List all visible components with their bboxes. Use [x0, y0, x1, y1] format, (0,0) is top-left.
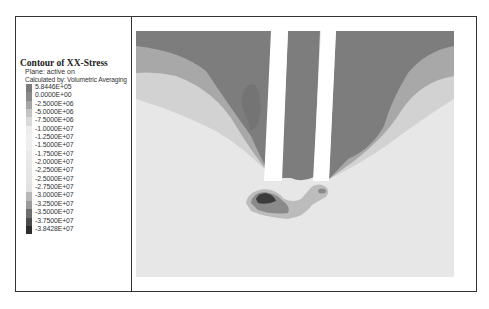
- scale-label: -2.0000E+07: [35, 158, 74, 165]
- scale-label: -2.5000E+07: [35, 175, 74, 182]
- scale-label: -1.2500E+07: [35, 133, 74, 140]
- scale-swatch: [26, 134, 32, 142]
- scale-label: -1.7500E+07: [35, 150, 74, 157]
- scale-label: -3.8428E+07: [35, 225, 74, 232]
- scale-swatch: [26, 117, 32, 125]
- contour-plot: [136, 31, 454, 277]
- legend-plane: Plane: active on: [25, 68, 132, 76]
- scale-label: 5.8446E+05: [35, 83, 71, 90]
- scale-swatch: [26, 176, 32, 184]
- scale-label: -2.7500E+07: [35, 183, 74, 190]
- scale-label: -3.2500E+07: [35, 200, 74, 207]
- scale-swatch: [26, 151, 32, 159]
- scale-label: -5.0000E+06: [35, 108, 74, 115]
- scale-swatch: [26, 184, 32, 192]
- scale-label: -2.2500E+07: [35, 166, 74, 173]
- scale-label: -1.5000E+07: [35, 141, 74, 148]
- contour-legend: Contour of XX-Stress Plane: active on Ca…: [20, 58, 132, 84]
- scale-label: -3.5000E+07: [35, 208, 74, 215]
- scale-swatch: [26, 226, 32, 234]
- scale-swatch: [26, 201, 32, 209]
- scale-swatch: [26, 109, 32, 117]
- scale-label: -3.0000E+07: [35, 191, 74, 198]
- scale-swatch: [26, 167, 32, 175]
- scale-label: -2.5000E+06: [35, 100, 74, 107]
- scale-label: -3.7500E+07: [35, 217, 74, 224]
- scale-swatch: [26, 218, 32, 226]
- scale-swatch: [26, 209, 32, 217]
- legend-title: Contour of XX-Stress: [20, 58, 132, 68]
- scale-swatch: [26, 159, 32, 167]
- contour-hotspot-small: [318, 189, 326, 194]
- scale-label: 0.0000E+00: [35, 91, 71, 98]
- scale-swatch: [26, 126, 32, 134]
- scale-swatch: [26, 142, 32, 150]
- scale-label: -7.5000E+06: [35, 116, 74, 123]
- scale-swatch: [26, 192, 32, 200]
- scale-label: -1.0000E+07: [35, 125, 74, 132]
- scale-swatch: [26, 84, 32, 92]
- scale-swatch: [26, 101, 32, 109]
- scale-swatch: [26, 92, 32, 100]
